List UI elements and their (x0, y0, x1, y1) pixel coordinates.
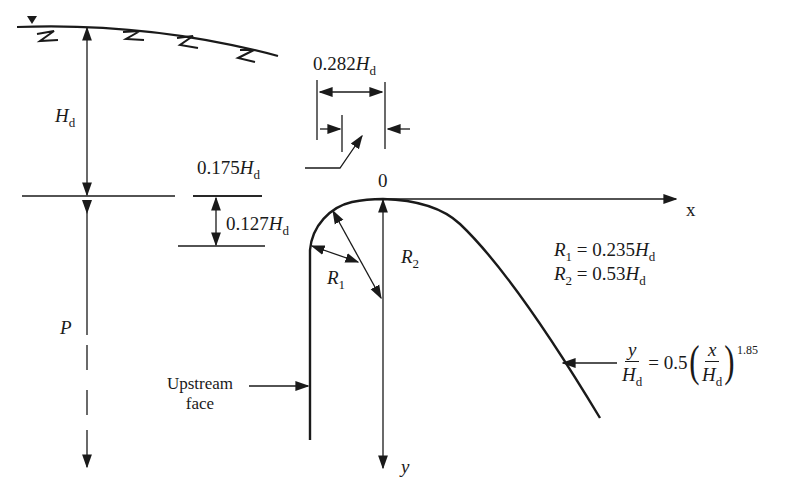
r1-label: R1 (327, 268, 345, 287)
crest-profile (310, 199, 600, 440)
crest-height-arrow (82, 200, 92, 467)
water-level-triangle-icon (27, 16, 37, 24)
water-surface (17, 16, 278, 62)
equation-rhs: x Hd (702, 340, 722, 384)
profile-equation: y Hd = 0.5 ( x Hd ) 1.85 (622, 340, 758, 384)
dim-0175-label: 0.175Hd (197, 158, 260, 177)
design-head-label: Hd (55, 106, 75, 125)
dim-0282-label: 0.282Hd (313, 54, 376, 73)
r2-label: R2 (401, 247, 419, 266)
r1-arrow (312, 246, 358, 262)
equation-lhs: y Hd (622, 340, 642, 384)
y-axis-label: y (401, 457, 409, 476)
dim-0175-leader (305, 136, 362, 168)
origin-label: 0 (378, 171, 388, 190)
r2-value: R2 = 0.53Hd (554, 264, 646, 283)
r1-value: R1 = 0.235Hd (554, 240, 655, 259)
crest-height-label: P (60, 318, 72, 337)
dim-0127-label: 0.127Hd (226, 214, 289, 233)
upstream-face-label: Upstream face (150, 374, 250, 415)
x-axis-label: x (686, 200, 696, 219)
water-ripple-icons (37, 31, 255, 62)
